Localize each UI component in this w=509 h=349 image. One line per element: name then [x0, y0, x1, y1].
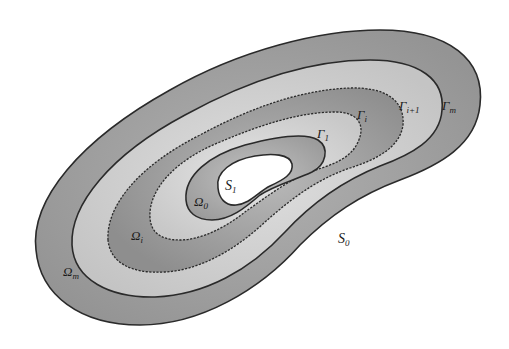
svg-text:S0: S0: [338, 231, 350, 248]
nested-regions-diagram: S1 Ω0 Γ1 Γi Γi+1 Γm Ωi Ωm S0: [0, 0, 509, 349]
label-s0: S0: [338, 231, 350, 248]
